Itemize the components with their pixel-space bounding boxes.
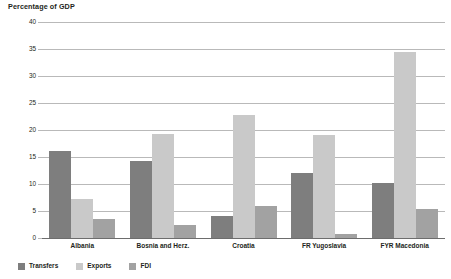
bar-exports-3 [313, 135, 335, 238]
y-tick-label: 0 [14, 235, 36, 241]
y-tick-label: 25 [14, 100, 36, 106]
y-tick-label: 5 [14, 208, 36, 214]
x-axis-label: Croatia [203, 243, 284, 250]
bar-fdi-4 [416, 209, 438, 238]
chart-container: Percentage of GDP 0510152025303540 Alban… [0, 0, 451, 279]
y-tick-label: 15 [14, 154, 36, 160]
bar-group [130, 22, 196, 238]
bar-transfers-0 [49, 151, 71, 238]
bar-group [372, 22, 438, 238]
x-axis-label: FYR Macedonia [364, 243, 445, 250]
bar-transfers-1 [130, 161, 152, 238]
bar-transfers-3 [291, 173, 313, 238]
bar-fdi-0 [93, 219, 115, 238]
gridline-0 [42, 238, 445, 239]
plot-area [42, 22, 445, 238]
y-tick-label: 30 [14, 73, 36, 79]
y-tick-label: 20 [14, 127, 36, 133]
bar-fdi-1 [174, 225, 196, 239]
bar-group [211, 22, 277, 238]
legend-label: FDI [140, 263, 150, 270]
bar-exports-0 [71, 199, 93, 238]
bar-transfers-4 [372, 183, 394, 238]
legend-label: Transfers [29, 263, 58, 270]
legend-swatch-icon [129, 263, 136, 270]
legend-item-fdi[interactable]: FDI [129, 263, 150, 270]
chart-legend: TransfersExportsFDI [18, 263, 169, 270]
y-tick-label: 35 [14, 46, 36, 52]
legend-swatch-icon [18, 263, 25, 270]
bar-exports-1 [152, 134, 174, 238]
legend-label: Exports [87, 263, 111, 270]
x-axis-label: Bosnia and Herz. [123, 243, 204, 250]
legend-item-transfers[interactable]: Transfers [18, 263, 58, 270]
bar-transfers-2 [211, 216, 233, 238]
x-axis-label: Albania [42, 243, 123, 250]
legend-swatch-icon [76, 263, 83, 270]
bar-fdi-3 [335, 234, 357, 238]
x-axis-label: FR Yugoslavia [284, 243, 365, 250]
bar-exports-2 [233, 115, 255, 238]
bar-group [291, 22, 357, 238]
y-tick-label: 10 [14, 181, 36, 187]
bar-fdi-2 [255, 206, 277, 238]
legend-item-exports[interactable]: Exports [76, 263, 111, 270]
bar-exports-4 [394, 52, 416, 238]
y-tick-label: 40 [14, 19, 36, 25]
bar-group [49, 22, 115, 238]
